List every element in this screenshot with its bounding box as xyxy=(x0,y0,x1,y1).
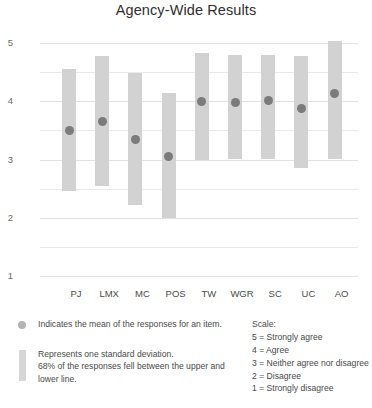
mean-dot-WGR xyxy=(231,98,240,107)
legend-mean-label: Indicates the mean of the responses for … xyxy=(38,318,252,330)
mean-dot-SC xyxy=(264,96,273,105)
scale-item-5: 5 = Strongly agree xyxy=(252,331,370,344)
scale-item-1: 1 = Strongly disagree xyxy=(252,382,370,395)
legend-sd-line2: 68% of the responses fell between the up… xyxy=(38,360,252,372)
chart-container: Agency-Wide Results 54321PJLMXMCPOSTWWGR… xyxy=(0,0,372,408)
plot-area: 54321PJLMXMCPOSTWWGRSCUCAO xyxy=(40,30,358,285)
chart-title: Agency-Wide Results xyxy=(0,2,372,18)
chart-legend: Indicates the mean of the responses for … xyxy=(14,318,252,385)
mean-dot-LMX xyxy=(98,117,107,126)
mean-dot-icon xyxy=(18,321,26,329)
gridline xyxy=(40,276,358,277)
stddev-bar-TW xyxy=(195,53,209,160)
gridline xyxy=(40,43,358,44)
gridline xyxy=(40,247,358,248)
stddev-bar-WGR xyxy=(228,55,242,159)
scale-item-2: 2 = Disagree xyxy=(252,370,370,383)
mean-dot-PJ xyxy=(65,126,74,135)
y-axis-tick-4: 4 xyxy=(0,95,13,106)
stddev-band-swatch-icon xyxy=(19,350,26,381)
legend-sd-line1: Represents one standard deviation. xyxy=(38,348,252,360)
legend-row-mean: Indicates the mean of the responses for … xyxy=(14,318,252,332)
gridline xyxy=(40,189,358,190)
y-axis-tick-3: 3 xyxy=(0,154,13,165)
scale-legend: Scale: 5 = Strongly agree 4 = Agree 3 = … xyxy=(252,318,370,395)
legend-sd-line3: lower line. xyxy=(38,373,252,385)
scale-heading: Scale: xyxy=(252,318,370,331)
mean-dot-POS xyxy=(164,152,173,161)
y-axis-tick-1: 1 xyxy=(0,270,13,281)
gridline xyxy=(40,218,358,219)
scale-item-3: 3 = Neither agree nor disagree xyxy=(252,357,370,370)
y-axis-tick-5: 5 xyxy=(0,37,13,48)
y-axis-tick-2: 2 xyxy=(0,212,13,223)
mean-dot-AO xyxy=(330,89,339,98)
stddev-bar-SC xyxy=(261,55,275,160)
legend-row-stddev: Represents one standard deviation. 68% o… xyxy=(14,348,252,385)
x-axis-tick-AO: AO xyxy=(322,288,362,299)
scale-item-4: 4 = Agree xyxy=(252,344,370,357)
mean-dot-MC xyxy=(131,135,140,144)
stddev-bar-AO xyxy=(328,41,342,159)
